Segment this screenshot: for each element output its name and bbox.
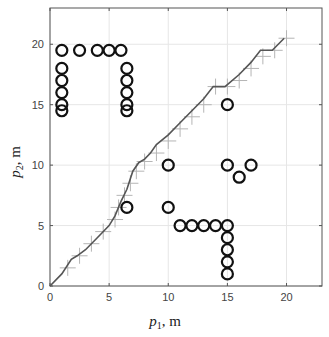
obstacle-circle [74,45,85,56]
y-tick-label: 15 [32,99,44,111]
y-tick-label: 0 [38,280,44,292]
obstacle-circle [234,172,245,183]
obstacle-markers [56,45,256,280]
y-tick-label: 10 [32,159,44,171]
obstacle-circle [121,63,132,74]
y-tick-label: 20 [32,38,44,50]
x-tick-label: 15 [221,291,233,303]
x-tick-label: 10 [162,291,174,303]
chart: 05101520 05101520 p1, m p2, m [0,0,329,337]
y-tick-label: 5 [38,220,44,232]
x-axis-label: p1, m [148,313,181,331]
obstacle-circle [121,87,132,98]
x-tick-label: 0 [47,291,53,303]
obstacle-circle [115,45,126,56]
plot-area [50,30,295,286]
obstacle-circle [56,45,67,56]
obstacle-circle [121,75,132,86]
obstacle-circle [56,63,67,74]
obstacle-circle [56,75,67,86]
y-axis-label: p2, m [7,146,25,179]
x-tick-label: 20 [280,291,292,303]
path-line [50,38,284,286]
x-tick-label: 5 [106,291,112,303]
obstacle-circle [56,87,67,98]
obstacle-circle [92,45,103,56]
